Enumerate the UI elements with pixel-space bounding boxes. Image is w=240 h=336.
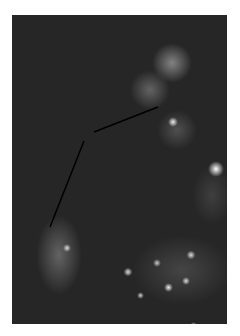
annotation-overlay [0, 0, 240, 336]
annotation-line [94, 107, 158, 132]
annotation-line [50, 141, 84, 227]
